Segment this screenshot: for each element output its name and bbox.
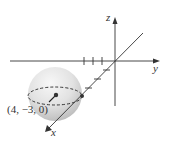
center-point-label: (4, −3, 0) xyxy=(7,103,48,116)
y-axis-label: y xyxy=(152,62,158,74)
x-axis-label: x xyxy=(50,126,56,138)
diagram-canvas: z y x (4, −3, 0) xyxy=(0,0,171,148)
z-axis-label: z xyxy=(105,11,111,23)
y-axis xyxy=(10,57,160,65)
